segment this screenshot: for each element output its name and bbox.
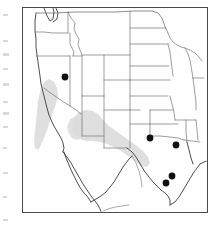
scan-artifact-mark — [3, 219, 8, 221]
page-background — [0, 0, 221, 234]
occurrence-point-1[interactable] — [62, 74, 69, 81]
occurrence-point-4[interactable] — [169, 173, 176, 180]
occurrence-point-5[interactable] — [163, 180, 170, 187]
scan-artifact-mark — [3, 101, 8, 103]
scan-artifact-mark — [3, 83, 9, 86]
scan-artifact-mark — [3, 40, 8, 42]
map-canvas — [0, 0, 221, 234]
scan-artifact-mark — [3, 172, 8, 174]
occurrence-point-3[interactable] — [173, 142, 180, 149]
scan-artifact-mark — [3, 147, 7, 149]
scan-artifact-mark — [3, 53, 9, 56]
scan-artifact-mark — [3, 196, 7, 198]
distribution-map-figure — [0, 0, 221, 234]
scan-artifact-mark — [3, 126, 8, 128]
occurrence-point-2[interactable] — [147, 135, 154, 142]
scan-artifact-mark — [3, 68, 8, 70]
scan-artifact-mark — [3, 112, 9, 115]
scan-artifact-mark — [3, 14, 8, 16]
